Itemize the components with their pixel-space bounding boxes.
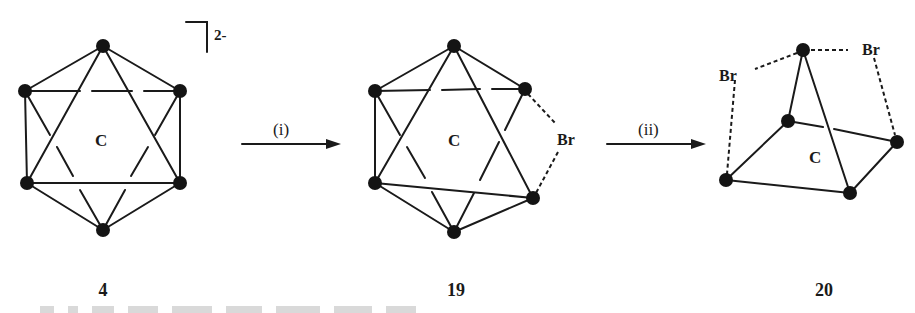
bromine-label-20-left: Br (719, 67, 737, 84)
compound-19-structure: C Br (368, 39, 575, 239)
cage-vertex (18, 84, 32, 98)
carbon-label-19: C (448, 131, 460, 150)
cage-vertex (368, 176, 382, 190)
bromine-label-19: Br (557, 131, 575, 148)
cage-vertex (447, 39, 461, 53)
compound-number-19: 19 (447, 280, 465, 300)
charge-label-4: 2- (214, 27, 227, 43)
reaction-condition-ii: (ii) (638, 120, 659, 139)
cage-vertex (796, 43, 810, 57)
reaction-arrow-ii: (ii) (607, 120, 706, 149)
cage-vertex (20, 176, 34, 190)
compound-20-structure: C Br Br (719, 41, 904, 200)
cage-vertex (518, 82, 532, 96)
reaction-condition-i: (i) (273, 120, 289, 139)
carbon-label-20: C (809, 148, 821, 167)
compound-4-structure: C 2- (18, 22, 227, 237)
cage-vertex (368, 84, 382, 98)
cage-vertex (447, 225, 461, 239)
cage-vertex (526, 191, 540, 205)
cage-vertex (96, 39, 110, 53)
clipped-caption (40, 306, 560, 313)
cage-vertex (890, 135, 904, 149)
cage-vertex (96, 223, 110, 237)
compound-number-20: 20 (815, 280, 833, 300)
bromine-label-20-right: Br (862, 41, 880, 58)
cage-vertex (781, 114, 795, 128)
carbon-label-4: C (95, 131, 107, 150)
compound-number-4: 4 (99, 280, 108, 300)
cage-vertex (843, 186, 857, 200)
cage-vertex (173, 176, 187, 190)
cage-vertex (173, 84, 187, 98)
cage-vertex (719, 173, 733, 187)
reaction-arrow-i: (i) (242, 120, 341, 149)
reaction-scheme: C 2- (i) (0, 0, 915, 313)
